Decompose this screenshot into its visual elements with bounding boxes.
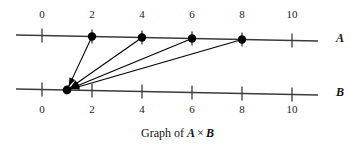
caption-prefix: Graph of bbox=[141, 126, 184, 140]
caption-set-b: B bbox=[206, 126, 214, 140]
tick-label-b-4: 4 bbox=[131, 103, 153, 115]
tick-label-a-6: 6 bbox=[181, 8, 203, 20]
point-a-4 bbox=[138, 33, 146, 41]
axis-line-a bbox=[16, 35, 318, 41]
tick-label-b-6: 6 bbox=[181, 103, 203, 115]
arrow-shaft-4-to-1 bbox=[70, 38, 142, 88]
point-a-8 bbox=[238, 35, 246, 43]
tick-label-a-4: 4 bbox=[131, 8, 153, 20]
caption-operator-icon: × bbox=[195, 126, 206, 140]
axis-label-b: B bbox=[336, 85, 344, 100]
tick-label-b-0: 0 bbox=[31, 103, 53, 115]
tick-label-a-10: 10 bbox=[281, 8, 303, 20]
arrow-shaft-6-to-1 bbox=[71, 38, 192, 88]
axis-label-a: A bbox=[336, 31, 344, 46]
point-a-2 bbox=[88, 32, 96, 40]
arrows-group bbox=[69, 37, 242, 90]
axis-line-b bbox=[16, 89, 318, 95]
caption-set-a: A bbox=[187, 126, 195, 140]
tick-label-a-8: 8 bbox=[231, 8, 253, 20]
relation-arrow-diagram: 02468100246810 A B Graph of A×B bbox=[0, 0, 355, 149]
tick-label-b-8: 8 bbox=[231, 103, 253, 115]
tick-label-a-2: 2 bbox=[81, 8, 103, 20]
arrow-shaft-8-to-1 bbox=[71, 39, 242, 88]
point-a-6 bbox=[188, 34, 196, 42]
axes-group bbox=[16, 29, 318, 102]
tick-label-a-0: 0 bbox=[31, 8, 53, 20]
tick-label-b-10: 10 bbox=[281, 103, 303, 115]
figure-caption: Graph of A×B bbox=[0, 126, 355, 141]
tick-label-b-2: 2 bbox=[81, 103, 103, 115]
point-b-1 bbox=[63, 86, 72, 95]
